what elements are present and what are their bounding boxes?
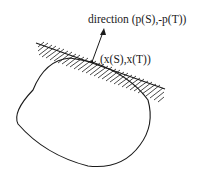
diagram-figure <box>0 0 202 178</box>
point-label: (x(S),x(T)) <box>100 54 151 66</box>
arrow-head-icon <box>100 28 106 35</box>
diagram-canvas: direction (p(S),-p(T)) (x(S),x(T)) <box>0 0 202 178</box>
convex-region <box>17 58 151 167</box>
direction-label: direction (p(S),-p(T)) <box>88 14 186 26</box>
tangent-point <box>91 61 93 63</box>
supporting-line <box>36 43 165 89</box>
